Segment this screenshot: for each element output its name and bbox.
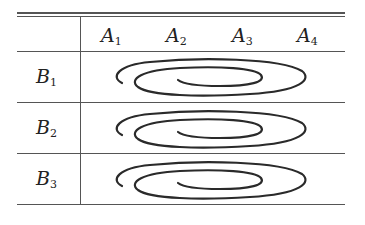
spiral-icon-row-1 — [80, 51, 365, 102]
spiral-icon-row-2 — [80, 102, 365, 153]
spiral-icon-row-3 — [80, 153, 365, 204]
column-header-a4: A4 — [297, 24, 318, 48]
column-header-a3: A3 — [232, 24, 253, 48]
column-header-a1: A1 — [101, 24, 122, 48]
column-header-a2: A2 — [166, 24, 187, 48]
row-label-b1: B1 — [36, 65, 57, 89]
top-rule-1 — [17, 12, 345, 14]
top-rule-2 — [17, 16, 345, 18]
row-label-b3: B3 — [36, 167, 57, 191]
bottom-rule — [17, 204, 345, 205]
row-label-b2: B2 — [36, 116, 57, 140]
